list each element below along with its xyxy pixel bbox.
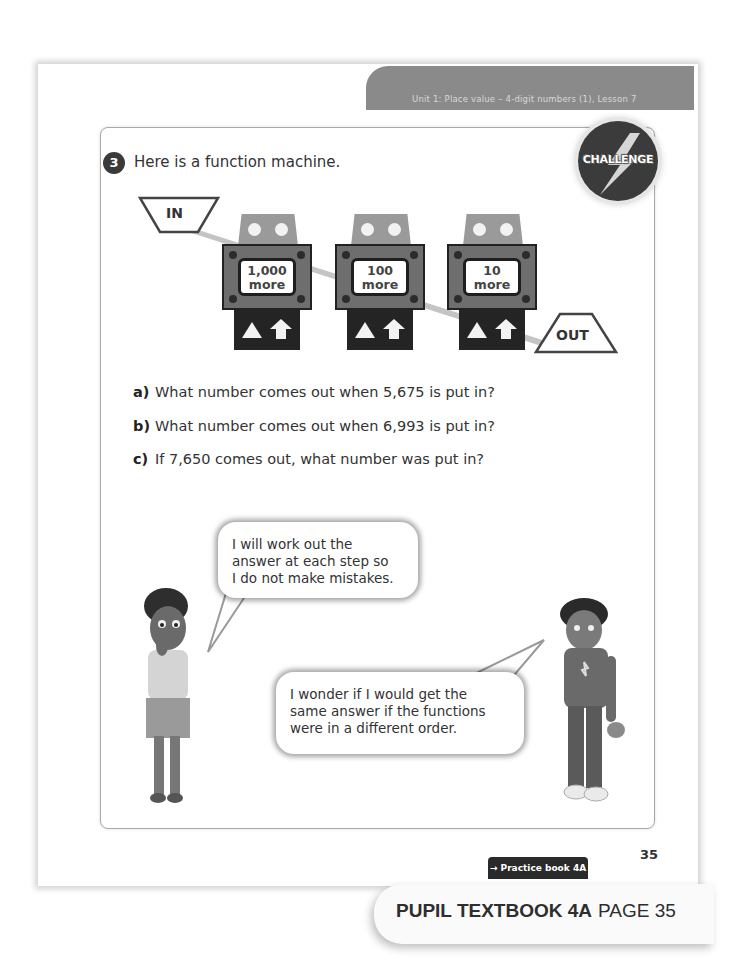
input-label: IN <box>166 205 183 221</box>
machine-display: 10 more <box>463 258 521 296</box>
boy-speech-text: I wonder if I would get the same answer … <box>290 686 486 737</box>
boy-character-illustration <box>544 596 630 802</box>
machine-display: 100 more <box>351 258 409 296</box>
up-arrow-icon <box>383 319 405 339</box>
practice-book-link[interactable]: → Practice book 4A p24 <box>488 857 588 879</box>
girl-character-illustration <box>128 584 200 806</box>
up-arrow-icon <box>270 319 292 339</box>
book-title: PUPIL TEXTBOOK 4APAGE 35 <box>396 900 676 922</box>
machine-display: 1,000 more <box>238 258 296 296</box>
triangle-icon <box>242 322 262 338</box>
output-label: OUT <box>556 327 589 343</box>
girl-speech-text: I will work out the answer at each step … <box>232 536 394 587</box>
function-machine-step-1: 1,000 more <box>222 214 314 326</box>
question-part-c: c)If 7,650 comes out, what number was pu… <box>133 451 484 467</box>
triangle-icon <box>467 322 487 338</box>
page-number: 35 <box>640 847 658 862</box>
triangle-icon <box>355 322 375 338</box>
question-part-b: b)What number comes out when 6,993 is pu… <box>133 418 495 434</box>
function-machine-step-3: 10 more <box>447 214 539 326</box>
question-part-a: a)What number comes out when 5,675 is pu… <box>133 384 495 400</box>
function-machine-step-2: 100 more <box>335 214 427 326</box>
up-arrow-icon <box>495 319 517 339</box>
